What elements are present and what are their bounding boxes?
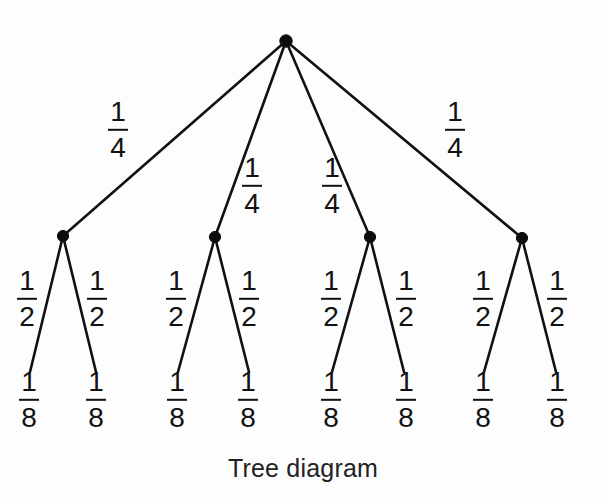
numerator: 1: [238, 368, 258, 398]
edge-label-quarter-4: 1 4: [445, 98, 465, 162]
edge-label-half-5: 1 2: [321, 267, 341, 331]
numerator: 1: [19, 368, 39, 398]
numerator: 1: [322, 154, 342, 184]
branch-node-1: [57, 230, 68, 241]
denominator: 2: [239, 302, 259, 331]
leaf-label-6: 1 8: [396, 368, 416, 432]
denominator: 2: [166, 302, 186, 331]
figure-caption: Tree diagram: [0, 454, 606, 483]
edge-label-half-6: 1 2: [396, 267, 416, 331]
denominator: 4: [108, 133, 128, 162]
denominator: 8: [86, 403, 106, 432]
leaf-label-2: 1 8: [86, 368, 106, 432]
numerator: 1: [166, 267, 186, 297]
denominator: 8: [321, 403, 341, 432]
leaf-label-4: 1 8: [238, 368, 258, 432]
numerator: 1: [473, 267, 493, 297]
leaf-label-3: 1 8: [167, 368, 187, 432]
fraction-bar: [86, 399, 106, 401]
branch-node-2: [209, 231, 220, 242]
denominator: 4: [242, 189, 262, 218]
edge-label-quarter-1: 1 4: [108, 98, 128, 162]
fraction-bar: [17, 298, 37, 300]
fraction-bar: [445, 129, 465, 131]
edge-label-quarter-2: 1 4: [242, 154, 262, 218]
denominator: 8: [167, 403, 187, 432]
branch-node-4: [516, 232, 527, 243]
fraction-bar: [473, 298, 493, 300]
denominator: 4: [322, 189, 342, 218]
fraction-bar: [238, 399, 258, 401]
fraction-bar: [473, 399, 493, 401]
fraction-bar: [19, 399, 39, 401]
edge-label-half-7: 1 2: [473, 267, 493, 331]
denominator: 2: [321, 302, 341, 331]
numerator: 1: [167, 368, 187, 398]
numerator: 1: [547, 267, 567, 297]
denominator: 2: [473, 302, 493, 331]
leaf-label-1: 1 8: [19, 368, 39, 432]
fraction-bar: [108, 129, 128, 131]
fraction-bar: [547, 399, 567, 401]
edge-label-half-4: 1 2: [239, 267, 259, 331]
denominator: 2: [87, 302, 107, 331]
fraction-bar: [396, 399, 416, 401]
numerator: 1: [108, 98, 128, 128]
numerator: 1: [87, 267, 107, 297]
fraction-bar: [321, 298, 341, 300]
edge-label-half-1: 1 2: [17, 267, 37, 331]
numerator: 1: [321, 267, 341, 297]
edge-label-half-8: 1 2: [547, 267, 567, 331]
denominator: 2: [17, 302, 37, 331]
numerator: 1: [473, 368, 493, 398]
tree-diagram-figure: 1 4 1 4 1 4 1 4 1 2 1 2 1 2 1 2 1: [0, 0, 606, 501]
fraction-bar: [167, 399, 187, 401]
numerator: 1: [396, 368, 416, 398]
leaf-label-5: 1 8: [321, 368, 341, 432]
denominator: 2: [396, 302, 416, 331]
fraction-bar: [547, 298, 567, 300]
denominator: 8: [396, 403, 416, 432]
fraction-bar: [166, 298, 186, 300]
numerator: 1: [86, 368, 106, 398]
fraction-bar: [321, 399, 341, 401]
fraction-bar: [242, 185, 262, 187]
denominator: 4: [445, 133, 465, 162]
denominator: 2: [547, 302, 567, 331]
fraction-bar: [87, 298, 107, 300]
fraction-bar: [396, 298, 416, 300]
denominator: 8: [19, 403, 39, 432]
denominator: 8: [473, 403, 493, 432]
edge-label-quarter-3: 1 4: [322, 154, 342, 218]
numerator: 1: [547, 368, 567, 398]
denominator: 8: [547, 403, 567, 432]
fraction-bar: [239, 298, 259, 300]
numerator: 1: [17, 267, 37, 297]
numerator: 1: [242, 154, 262, 184]
edge-label-half-3: 1 2: [166, 267, 186, 331]
branch-node-3: [364, 231, 375, 242]
numerator: 1: [321, 368, 341, 398]
root-node: [280, 35, 292, 47]
fraction-bar: [322, 185, 342, 187]
leaf-label-7: 1 8: [473, 368, 493, 432]
leaf-label-8: 1 8: [547, 368, 567, 432]
denominator: 8: [238, 403, 258, 432]
numerator: 1: [445, 98, 465, 128]
edge-label-half-2: 1 2: [87, 267, 107, 331]
numerator: 1: [239, 267, 259, 297]
numerator: 1: [396, 267, 416, 297]
